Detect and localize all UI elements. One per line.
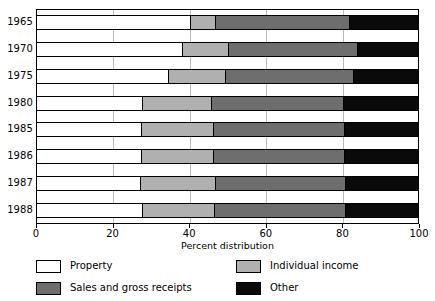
bar-segment-1975-sales-and-gross-receipts (226, 69, 354, 84)
x-axis-title: Percent distribution (36, 240, 419, 252)
legend-swatch-other (236, 282, 261, 295)
bar-segment-1987-individual-income (141, 176, 216, 191)
bar-segment-1985-other (345, 122, 419, 137)
y-axis-labels: 19651970197519801985198619871988 (0, 9, 33, 224)
bar-row-1970 (36, 42, 419, 57)
bar-segment-1987-property (36, 176, 141, 191)
bar-segment-1965-property (36, 15, 191, 30)
y-axis-label-1970: 1970 (0, 44, 33, 54)
bar-segment-1980-other (344, 96, 419, 111)
y-axis-label-1986: 1986 (0, 151, 33, 161)
legend-swatch-individual (236, 260, 261, 273)
bar-row-1965 (36, 15, 419, 30)
bar-segment-1988-property (36, 203, 143, 218)
x-axis-tick-label-20: 20 (93, 228, 133, 240)
bar-row-1987 (36, 176, 419, 191)
bar-row-1985 (36, 122, 419, 137)
bar-segment-1975-property (36, 69, 169, 84)
legend-item-property[interactable]: Property (36, 258, 112, 274)
legend-label-sales: Sales and gross receipts (70, 282, 192, 294)
bar-segment-1985-sales-and-gross-receipts (214, 122, 345, 137)
bar-segment-1988-sales-and-gross-receipts (215, 203, 346, 218)
bar-row-1986 (36, 149, 419, 164)
bar-segment-1970-other (358, 42, 419, 57)
bar-segment-1980-property (36, 96, 143, 111)
bar-segment-1965-other (350, 15, 419, 30)
x-axis-tick-label-0: 0 (16, 228, 56, 240)
legend-item-other[interactable]: Other (236, 280, 298, 296)
bar-segment-1986-sales-and-gross-receipts (214, 149, 345, 164)
bar-segment-1988-other (346, 203, 419, 218)
legend-label-individual: Individual income (270, 260, 359, 272)
legend-swatch-property (36, 260, 61, 273)
x-axis-tick-label-60: 60 (246, 228, 286, 240)
x-axis-tick-label-80: 80 (322, 228, 362, 240)
x-axis-tick-label-40: 40 (169, 228, 209, 240)
bar-segment-1986-individual-income (142, 149, 214, 164)
y-axis-label-1985: 1985 (0, 124, 33, 134)
bar-segment-1985-individual-income (142, 122, 214, 137)
bar-segment-1987-sales-and-gross-receipts (216, 176, 346, 191)
bar-segment-1965-sales-and-gross-receipts (216, 15, 350, 30)
bar-segment-1970-property (36, 42, 183, 57)
y-axis-label-1975: 1975 (0, 71, 33, 81)
bar-segment-1985-property (36, 122, 142, 137)
bar-segment-1975-individual-income (169, 69, 226, 84)
bar-segment-1970-sales-and-gross-receipts (229, 42, 357, 57)
bar-segment-1980-individual-income (143, 96, 212, 111)
bar-row-1980 (36, 96, 419, 111)
y-axis-label-1987: 1987 (0, 178, 33, 188)
bar-segment-1986-other (345, 149, 419, 164)
bar-row-1988 (36, 203, 419, 218)
legend-label-other: Other (270, 282, 298, 294)
y-axis-label-1988: 1988 (0, 205, 33, 215)
legend-swatch-sales (36, 282, 61, 295)
bar-segment-1980-sales-and-gross-receipts (212, 96, 344, 111)
legend-item-sales[interactable]: Sales and gross receipts (36, 280, 192, 296)
bar-segment-1975-other (354, 69, 419, 84)
y-axis-label-1980: 1980 (0, 98, 33, 108)
y-axis-label-1965: 1965 (0, 17, 33, 27)
legend-item-individual[interactable]: Individual income (236, 258, 359, 274)
bar-segment-1987-other (346, 176, 419, 191)
x-axis-tick-label-100: 100 (399, 228, 435, 240)
chart-legend: PropertyIndividual incomeSales and gross… (36, 258, 435, 300)
stacked-bar-chart: 19651970197519801985198619871988 0204060… (0, 0, 435, 301)
bar-segment-1986-property (36, 149, 142, 164)
legend-label-property: Property (70, 260, 112, 272)
bar-segment-1988-individual-income (143, 203, 215, 218)
bar-segment-1965-individual-income (191, 15, 216, 30)
bar-row-1975 (36, 69, 419, 84)
bars-layer (36, 9, 419, 224)
bar-segment-1970-individual-income (183, 42, 229, 57)
